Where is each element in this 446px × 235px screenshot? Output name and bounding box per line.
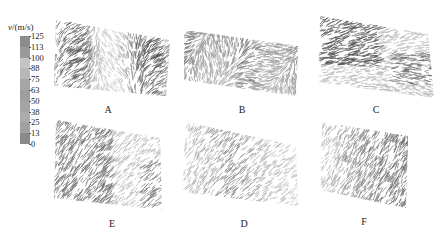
- colorbar-segment: [20, 122, 30, 133]
- colorbar-title: v/(m/s): [8, 22, 34, 32]
- colorbar-tick: 88: [31, 64, 40, 73]
- panel-c: [318, 12, 436, 102]
- colorbar-legend: v/(m/s) 125113100887563503825130: [6, 22, 50, 152]
- panel-d: [182, 118, 300, 210]
- colorbar-segment: [20, 133, 30, 144]
- colorbar-tick: 125: [31, 32, 44, 41]
- panel-label-f: F: [354, 216, 374, 227]
- vector-field-d: [182, 118, 300, 210]
- panel-e: [52, 116, 168, 210]
- vector-field-a: [52, 12, 174, 102]
- colorbar-tick: 50: [31, 97, 40, 106]
- colorbar-tick: 113: [31, 43, 43, 52]
- colorbar-tick: 25: [31, 118, 40, 127]
- panel-label-e: E: [102, 218, 122, 229]
- colorbar-tick: 13: [31, 129, 40, 138]
- colorbar-segment: [20, 101, 30, 112]
- panel-label-a: A: [98, 104, 118, 115]
- colorbar-segment: [20, 47, 30, 58]
- vector-field-e: [52, 116, 168, 210]
- colorbar-segment: [20, 90, 30, 101]
- colorbar-tick: 0: [31, 140, 35, 149]
- vector-field-f: [320, 120, 410, 210]
- colorbar-tick: 38: [31, 108, 40, 117]
- panel-label-d: D: [234, 218, 254, 229]
- colorbar-tick: 63: [31, 86, 40, 95]
- colorbar-segment: [20, 79, 30, 90]
- colorbar-segment: [20, 112, 30, 123]
- colorbar-segment: [20, 68, 30, 79]
- panel-b: [182, 28, 300, 98]
- vector-field-c: [318, 12, 436, 102]
- colorbar-tick: 75: [31, 75, 40, 84]
- colorbar-tick: 100: [31, 54, 44, 63]
- panel-label-c: C: [366, 104, 386, 115]
- colorbar-segment: [20, 36, 30, 47]
- panel-f: [320, 120, 410, 210]
- vector-field-b: [182, 28, 300, 98]
- panel-label-b: B: [232, 104, 252, 115]
- colorbar-segment: [20, 58, 30, 69]
- panel-a: [52, 12, 174, 102]
